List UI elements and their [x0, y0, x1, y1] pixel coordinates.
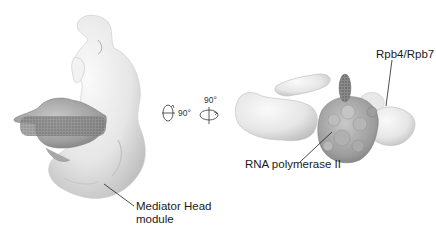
- mediator-head-label-line2: module: [136, 213, 211, 226]
- figure: 90° 90° Mediator Head module Rpb4/Rpb7 R…: [0, 0, 436, 236]
- right-polymerase-surface: [318, 74, 379, 163]
- rna-polymerase-ii-label: RNA polymerase II: [245, 158, 341, 171]
- mediator-head-label: Mediator Head module: [136, 200, 211, 226]
- rpb4-rpb7-leader-line: [386, 60, 392, 106]
- rotation-icon-horizontal-axis: [200, 107, 218, 124]
- mediator-head-label-line1: Mediator Head: [136, 200, 211, 213]
- rotation-angle-2: 90°: [204, 95, 217, 105]
- density-maps: [0, 0, 436, 236]
- rpb4-rpb7-label: Rpb4/Rpb7: [376, 48, 434, 61]
- rotation-angle-1: 90°: [178, 108, 191, 118]
- rotation-icon-vertical-axis: [162, 105, 175, 121]
